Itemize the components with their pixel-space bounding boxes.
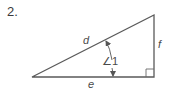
right-triangle-diagram: d f e ∠1 [0,0,169,93]
triangle-figure: 2. d f e ∠1 [0,0,169,93]
side-label-e: e [88,78,94,90]
angle-arc-arrow-lower [112,68,113,76]
side-label-f: f [158,38,162,50]
right-angle-marker [146,69,154,77]
angle-label: ∠1 [102,55,118,67]
side-label-d: d [83,34,90,46]
triangle-outline [32,15,154,77]
